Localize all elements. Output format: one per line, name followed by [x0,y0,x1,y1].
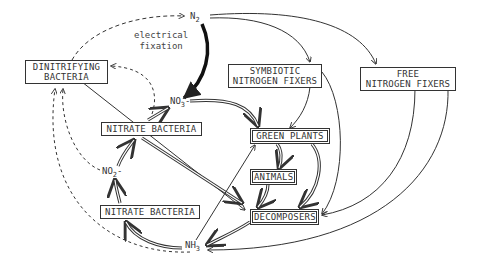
decomposers-box: DECOMPOSERS [250,209,319,225]
dinitrifying-bacteria-box: DINITRIFYING BACTERIA [25,60,108,84]
dinitrifying-line2: BACTERIA [28,72,105,82]
nitrate-bacteria-top-box: NITRATE BACTERIA [101,122,202,136]
electrical-fixation-line2: fixation [134,41,188,52]
symbiotic-nitrogen-fixers-box: SYMBIOTIC NITROGEN FIXERS [228,64,322,88]
edge-no2-to-dinitrifying [63,89,100,170]
nitrate-bottom-label: NITRATE BACTERIA [103,207,197,217]
dinitrifying-line1: DINITRIFYING [28,62,105,72]
nitrogen-cycle-diagram [0,0,481,272]
nh3-subscript: 3 [196,245,200,253]
no2-node: NO2- [102,166,122,179]
green-plants-box: GREEN PLANTS [250,128,330,144]
green-plants-label: GREEN PLANTS [254,131,326,141]
edge-symbiotic-to-green-plants [290,87,310,128]
edge-free-to-decomposers [322,89,415,215]
no3-charge: - [185,96,190,106]
no3-node: NO3- [170,96,190,109]
symbiotic-line1: SYMBIOTIC [231,66,319,76]
symbiotic-line2: NITROGEN FIXERS [231,76,319,86]
free-nitrogen-fixers-box: FREE NITROGEN FIXERS [360,67,456,91]
animals-box: ANIMALS [250,169,297,185]
nh3-node: NH3 [185,240,200,253]
free-line1: FREE [363,69,453,79]
n2-subscript: 2 [195,16,199,24]
no2-charge: - [117,166,122,176]
decomposers-label: DECOMPOSERS [254,212,315,222]
edge-no3-to-dinitrifying [111,66,155,114]
no2-label: NO [102,166,113,176]
nitrate-top-label: NITRATE BACTERIA [104,124,199,134]
no3-label: NO [170,96,181,106]
electrical-fixation-line1: electrical [134,30,188,41]
animals-label: ANIMALS [254,172,293,182]
edge-n2-to-free [210,13,376,64]
nh3-label: NH [185,240,196,250]
nitrate-bacteria-bottom-box: NITRATE BACTERIA [100,205,200,219]
electrical-fixation-label: electrical fixation [134,30,188,52]
n2-node: N2 [190,11,200,24]
edge-n2-to-symbiotic [210,18,310,62]
free-line2: NITROGEN FIXERS [363,79,453,89]
